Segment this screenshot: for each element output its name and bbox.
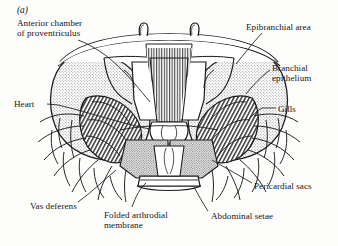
figure-panel-a: (a) Anterior chamber of proventriculus H… <box>0 0 338 246</box>
label-folded-arthrodial-membrane: Folded arthrodial membrane <box>104 210 168 231</box>
label-branchial-epithelium: Branchial epithelium <box>272 63 311 84</box>
label-heart: Heart <box>14 99 34 109</box>
label-abdominal-setae: Abdominal setae <box>211 211 273 221</box>
label-anterior-chamber-of-proventriculus: Anterior chamber of proventriculus <box>17 18 82 39</box>
leader-pericardial-sacs <box>212 160 252 183</box>
label-vas-deferens: Vas deferens <box>30 201 77 211</box>
leader-abdominal-setae <box>194 187 208 211</box>
panel-tag: (a) <box>17 5 28 15</box>
label-pericardial-sacs: Pericardial sacs <box>254 181 312 191</box>
label-epibranchial-area: Epibranchial area <box>246 22 311 32</box>
label-gills: Gills <box>278 104 296 114</box>
